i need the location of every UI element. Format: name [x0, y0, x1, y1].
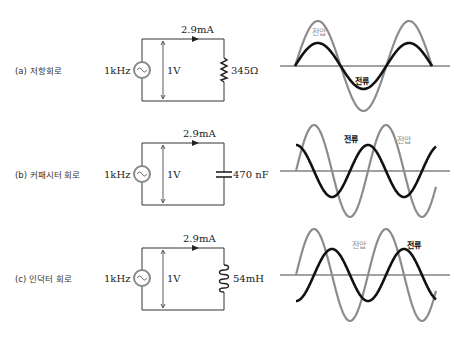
resistor-icon — [221, 58, 227, 82]
circuit-wires — [142, 39, 224, 101]
voltage-label: 1V — [167, 169, 181, 180]
current-direction-arrow — [192, 140, 199, 146]
current-wave-label: 전류 — [407, 240, 422, 250]
current-wave-label: 전류 — [344, 134, 359, 144]
panel-b-capacitor-circuit: 2.9mA 1V 1kHz 470 nF 전류 전압 — [104, 125, 450, 217]
waveform-b: 전류 전압 — [280, 125, 450, 217]
voltage-label: 1V — [167, 273, 181, 284]
current-direction-arrow — [192, 36, 199, 42]
inductor-icon — [220, 265, 229, 292]
ac-source-icon — [134, 166, 150, 182]
source-frequency: 1kHz — [104, 169, 130, 180]
panel-c-caption: (c) 인덕터 회로 — [15, 272, 72, 284]
voltage-label: 1V — [167, 65, 181, 76]
panel-a-resistor-circuit: 2.9mA 1V 1kHz 345Ω 전압 전류 — [104, 21, 450, 111]
voltage-arrow — [161, 145, 165, 203]
panel-a-caption: (a) 저항회로 — [15, 64, 62, 76]
current-label: 2.9mA — [183, 233, 216, 244]
waveform-a: 전압 전류 — [280, 21, 450, 111]
voltage-wave-label: 전압 — [397, 135, 412, 145]
circuit-wires — [142, 248, 224, 310]
capacitor-icon — [216, 172, 232, 177]
source-frequency: 1kHz — [104, 65, 130, 76]
voltage-wave-label: 전압 — [352, 240, 367, 250]
current-wave-label: 전류 — [355, 76, 370, 86]
voltage-arrow — [161, 41, 165, 99]
waveform-c: 전압 전류 — [280, 229, 450, 321]
source-frequency: 1kHz — [104, 273, 130, 284]
current-label: 2.9mA — [183, 128, 216, 139]
voltage-arrow — [161, 250, 165, 308]
component-value: 54mH — [233, 273, 264, 284]
voltage-wave-label: 전압 — [312, 27, 327, 37]
ac-source-icon — [134, 270, 150, 286]
component-value: 345Ω — [231, 65, 258, 76]
panel-b-caption: (b) 커패시터 회로 — [15, 168, 80, 180]
circuit-wires — [142, 143, 224, 205]
current-label: 2.9mA — [181, 24, 214, 35]
component-value: 470 nF — [233, 169, 269, 180]
current-direction-arrow — [192, 245, 199, 251]
ac-source-icon — [134, 62, 150, 78]
panel-c-inductor-circuit: 2.9mA 1V 1kHz 54mH 전압 전류 — [104, 229, 450, 321]
